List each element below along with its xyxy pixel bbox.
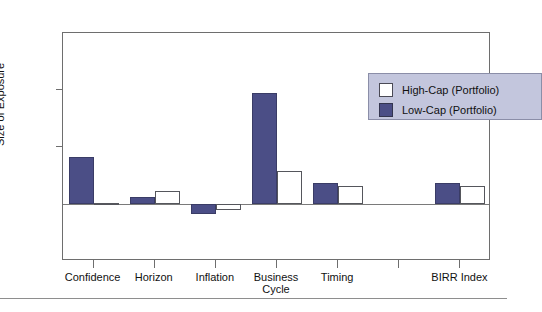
x-axis-tick-mark — [398, 260, 399, 268]
footer-divider — [0, 298, 507, 299]
x-axis-tick-mark — [459, 260, 460, 268]
bar-high-cap — [277, 171, 302, 204]
high-cap-swatch — [379, 83, 393, 97]
legend-label: Low-Cap (Portfolio) — [402, 104, 497, 116]
x-axis-tick-mark — [276, 260, 277, 268]
legend-entry: High-Cap (Portfolio) — [379, 82, 499, 97]
x-axis-category-label: BIRR Index — [411, 271, 507, 283]
x-axis-tick-mark — [154, 260, 155, 268]
chart-legend: High-Cap (Portfolio)Low-Cap (Portfolio) — [368, 73, 542, 120]
legend-entry: Low-Cap (Portfolio) — [379, 102, 497, 117]
x-axis-tick-mark — [93, 260, 94, 268]
x-axis-category-label: Timing — [289, 271, 385, 283]
low-cap-swatch — [379, 103, 393, 117]
plot-area — [63, 33, 489, 259]
bar-high-cap — [338, 186, 363, 204]
x-axis-tick-mark — [215, 260, 216, 268]
bar-low-cap — [130, 197, 155, 204]
bar-low-cap — [435, 183, 460, 204]
bar-high-cap — [155, 191, 180, 204]
clipped-title-text — [18, 0, 318, 6]
bar-low-cap — [69, 157, 94, 204]
bar-high-cap — [94, 203, 119, 205]
bar-low-cap — [252, 93, 277, 204]
bar-high-cap — [216, 204, 241, 210]
legend-label: High-Cap (Portfolio) — [402, 84, 499, 96]
x-axis-tick-mark — [337, 260, 338, 268]
y-axis-title: Size of Exposure — [0, 63, 6, 146]
plot-frame: High-Cap (Portfolio)Low-Cap (Portfolio) — [62, 32, 490, 260]
bar-low-cap — [313, 183, 338, 204]
zero-baseline — [63, 204, 489, 205]
bar-high-cap — [460, 186, 485, 204]
bar-low-cap — [191, 204, 216, 214]
